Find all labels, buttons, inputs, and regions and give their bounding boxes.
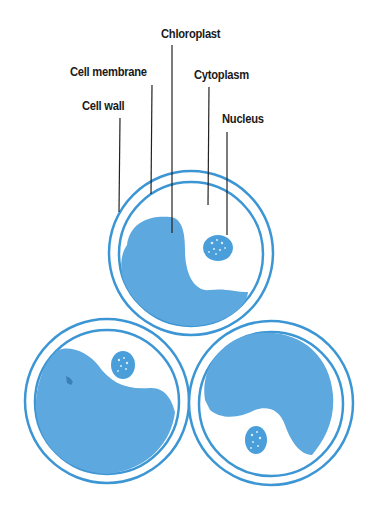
nucleus [111,351,135,379]
bottom-right-cell [189,321,353,485]
leader-line-cell-wall [119,118,120,212]
label-cytoplasm: Cytoplasm [194,67,249,82]
nucleus [203,235,233,261]
label-cell-membrane: Cell membrane [70,64,147,79]
leader-line-cell-membrane [151,85,152,194]
nucleus [245,426,267,454]
label-nucleus: Nucleus [222,111,264,126]
top-cell [109,171,273,335]
label-chloroplast: Chloroplast [161,26,220,41]
label-cell-wall: Cell wall [82,98,124,113]
plant-cell-diagram: Chloroplast Cell membrane Cytoplasm Cell… [0,0,376,513]
cell-illustration [0,0,376,513]
bottom-left-cell [25,319,189,483]
